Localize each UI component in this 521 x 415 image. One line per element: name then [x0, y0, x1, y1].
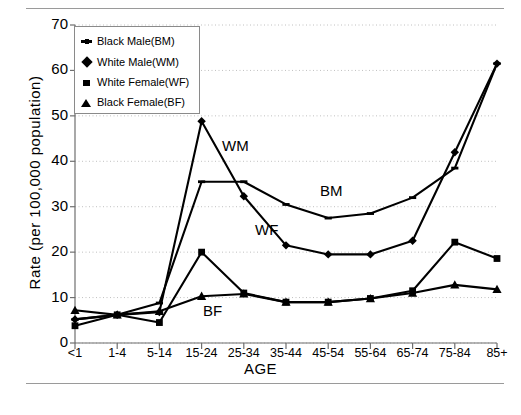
- data-point-marker: [367, 212, 374, 215]
- data-point-marker: [282, 203, 289, 206]
- legend-item-black-male[interactable]: Black Male(BM): [81, 31, 175, 51]
- y-axis-title: Rate (per 100,000 population): [26, 33, 43, 333]
- series-annotation-bf: BF: [203, 302, 222, 319]
- series-annotation-wf: WF: [255, 221, 278, 238]
- series-annotation-wm: WM: [222, 137, 249, 154]
- data-point-marker: [325, 217, 332, 220]
- chart-legend: Black Male(BM) White Male(WM) White Fema…: [74, 26, 200, 114]
- data-point-marker: [451, 167, 458, 170]
- data-point-marker: [366, 250, 374, 258]
- legend-label-black-female: Black Female(BF): [97, 96, 185, 108]
- data-point-marker: [198, 180, 205, 183]
- data-point-marker: [156, 319, 163, 326]
- x-tick-label-85-: 85+: [467, 346, 521, 360]
- data-point-marker: [198, 249, 205, 256]
- legend-item-white-male[interactable]: White Male(WM): [81, 52, 179, 72]
- data-point-marker: [409, 196, 416, 199]
- x-axis-title: AGE: [0, 360, 521, 377]
- diamond-marker-icon: [81, 57, 92, 68]
- square-marker-icon: [81, 77, 92, 88]
- legend-label-black-male: Black Male(BM): [97, 35, 175, 47]
- data-point-marker: [451, 239, 458, 246]
- data-point-marker: [451, 148, 459, 156]
- data-point-marker: [494, 255, 501, 262]
- data-point-marker: [324, 250, 332, 258]
- legend-item-black-female[interactable]: Black Female(BF): [81, 92, 185, 112]
- triangle-marker-icon: [81, 97, 92, 108]
- series-bf: [70, 280, 501, 318]
- series-annotation-bm: BM: [320, 182, 343, 199]
- legend-label-white-female: White Female(WF): [97, 76, 189, 88]
- legend-label-white-male: White Male(WM): [97, 56, 179, 68]
- y-tick-label-70: 70: [36, 15, 68, 32]
- dash-dot-marker-icon: [81, 36, 92, 47]
- data-point-marker: [408, 237, 416, 245]
- legend-item-white-female[interactable]: White Female(WF): [81, 72, 189, 92]
- data-point-marker: [240, 180, 247, 183]
- chart-figure: 70 60 50 40 30 20 10 0 Rate (per 100,000…: [0, 0, 521, 415]
- data-point-marker: [71, 315, 79, 323]
- data-point-marker: [493, 59, 501, 67]
- data-point-marker: [197, 117, 205, 125]
- data-point-marker: [72, 322, 79, 329]
